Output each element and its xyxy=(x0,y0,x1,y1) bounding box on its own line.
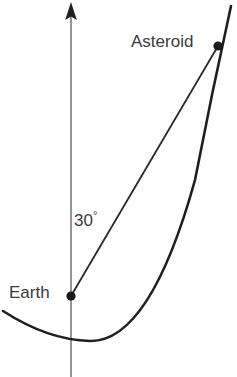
degree-symbol-icon: ° xyxy=(93,209,97,221)
asteroid-label: Asteroid xyxy=(131,33,193,50)
earth-point-marker xyxy=(66,291,75,300)
angle-label: 30° xyxy=(74,210,97,229)
earth-label: Earth xyxy=(9,284,50,301)
asteroid-point-marker xyxy=(213,41,222,50)
angle-value: 30 xyxy=(74,211,93,230)
diagram-canvas xyxy=(0,0,237,377)
vertical-axis xyxy=(65,2,77,377)
orbit-diagram: Asteroid Earth 30° xyxy=(0,0,237,377)
